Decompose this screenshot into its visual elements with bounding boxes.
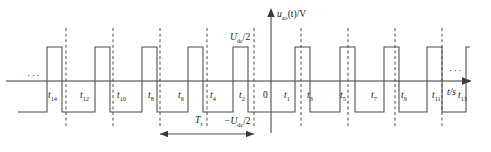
pwm-waveform	[18, 47, 470, 112]
waveform-svg	[0, 0, 491, 152]
time-label-sub: 6	[181, 95, 184, 102]
time-label-sub: 13	[461, 95, 467, 102]
time-label-sub: 12	[83, 95, 89, 102]
time-label-t9: t9	[401, 91, 407, 102]
time-label-sub: 5	[343, 95, 346, 102]
time-label-t7: t7	[371, 91, 377, 102]
time-label-sub: 9	[404, 95, 407, 102]
level-low-rest: /2	[243, 116, 250, 126]
switching-period-arrow	[160, 131, 254, 137]
time-label-sub: 3	[310, 95, 313, 102]
time-label-t1: t1	[284, 91, 290, 102]
level-low-label: −Udc/2	[224, 117, 251, 128]
figure-canvas: uao(t)/V Udc/2 −Udc/2 t/s Ts ··· ··· t14…	[0, 0, 491, 152]
time-axis	[6, 77, 472, 85]
time-label-t11: t11	[432, 91, 441, 102]
time-label-t14: t14	[48, 91, 57, 102]
switching-period-sub: s	[200, 120, 202, 127]
time-label-t2: t2	[239, 91, 245, 102]
y-axis-label: uao(t)/V	[277, 10, 306, 21]
time-label-sub: 2	[242, 95, 245, 102]
level-high-main: U	[230, 32, 237, 42]
time-label-sub: 4	[213, 95, 216, 102]
time-label-t13: t13	[458, 91, 467, 102]
time-label-sub: 7	[374, 95, 377, 102]
time-label-t6: t6	[178, 91, 184, 102]
switching-period-label: Ts	[195, 116, 203, 127]
time-label-t3: t3	[307, 91, 313, 102]
level-low-main: −U	[224, 116, 237, 126]
ellipsis-right: ···	[449, 65, 463, 76]
time-label-t12: t12	[80, 91, 89, 102]
time-label-t5: t5	[340, 91, 346, 102]
time-label-main: 0	[263, 90, 268, 100]
voltage-axis	[267, 8, 274, 133]
time-label-t4: t4	[210, 91, 216, 102]
origin-label: 0	[263, 91, 268, 101]
sampling-dashed-lines	[66, 28, 442, 128]
time-label-sub: 8	[151, 95, 154, 102]
time-label-sub: 11	[435, 95, 441, 102]
time-label-t10: t10	[117, 91, 126, 102]
level-high-rest: /2	[243, 32, 250, 42]
time-label-t8: t8	[148, 91, 154, 102]
level-high-label: Udc/2	[230, 33, 250, 44]
time-label-sub: 10	[120, 95, 126, 102]
ellipsis-left: ···	[27, 70, 41, 81]
x-axis-label: t/s	[447, 88, 456, 98]
y-axis-label-rest: (t)/V	[288, 9, 306, 19]
time-label-sub: 1	[287, 95, 290, 102]
time-label-sub: 14	[51, 95, 57, 102]
